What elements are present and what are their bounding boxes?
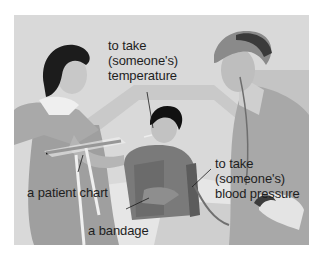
label-bandage: a bandage xyxy=(88,223,149,238)
label-blood-pressure-line1: to take xyxy=(215,156,300,171)
label-blood-pressure: to take (someone's) blood pressure xyxy=(215,156,300,201)
label-blood-pressure-line2: (someone's) xyxy=(215,171,300,186)
label-temperature-line3: temperature xyxy=(108,68,178,83)
label-blood-pressure-line3: blood pressure xyxy=(215,186,300,201)
label-temperature: to take (someone's) temperature xyxy=(108,38,178,83)
label-temperature-line2: (someone's) xyxy=(108,53,178,68)
label-patient-chart: a patient chart xyxy=(27,185,108,200)
label-temperature-line1: to take xyxy=(108,38,178,53)
illustration-scene: to take (someone's) temperature to take … xyxy=(14,15,309,245)
